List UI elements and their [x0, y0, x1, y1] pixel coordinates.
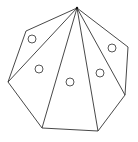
triangle-marker-5: [108, 44, 116, 52]
triangulated-heptagon-diagram: [0, 0, 138, 142]
triangle-marker-3: [66, 78, 74, 86]
apex-vertex-dot: [76, 7, 78, 9]
heptagon-outline: [8, 8, 128, 131]
triangle-markers: [28, 35, 116, 86]
diagonals: [8, 8, 125, 131]
triangle-marker-1: [28, 35, 36, 43]
heptagon-boundary: [8, 8, 128, 131]
triangle-marker-2: [35, 65, 43, 73]
diagonal-apex-to-bottom-left: [42, 8, 77, 128]
triangle-marker-4: [96, 69, 104, 77]
